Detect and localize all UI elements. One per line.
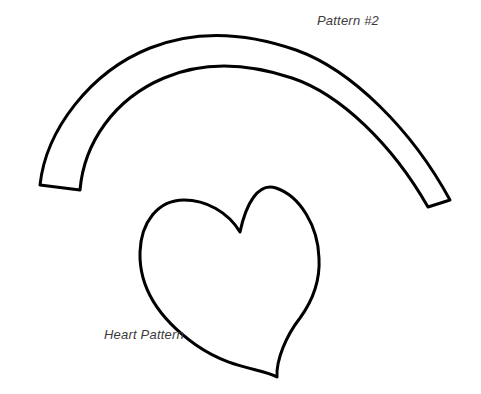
label-pattern-2: Pattern #2: [317, 14, 379, 27]
pattern-sheet: Pattern #2 Heart Pattern: [0, 0, 481, 394]
label-heart-pattern: Heart Pattern: [104, 328, 184, 341]
pattern-drawing-canvas: [0, 0, 481, 394]
